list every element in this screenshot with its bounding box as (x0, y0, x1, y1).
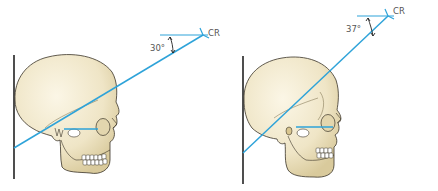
left-panel: 30° CR (14, 28, 220, 179)
cr-tick (200, 28, 203, 35)
angle-arrow-icon (168, 37, 175, 53)
angle-label: 37° (346, 24, 361, 34)
skull-illustration (15, 55, 119, 174)
teeth (316, 148, 333, 158)
cr-tick (385, 9, 388, 16)
central-ray-label: CR (208, 28, 220, 38)
teeth (82, 154, 107, 165)
right-panel: 37° CR (243, 6, 405, 184)
diagram-canvas: 30° CR (0, 0, 438, 191)
angle-label: 30° (150, 43, 165, 53)
central-ray-label: CR (393, 6, 405, 16)
